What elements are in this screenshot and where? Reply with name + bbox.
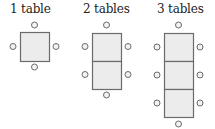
chair-icon — [82, 72, 88, 78]
group-2-tables — [82, 22, 131, 98]
chair-icon — [104, 92, 110, 98]
chair-icon — [176, 121, 182, 127]
table-square — [93, 62, 122, 90]
chair-icon — [10, 44, 16, 50]
chair-icon — [154, 72, 160, 78]
table-square — [165, 90, 194, 118]
chair-icon — [32, 22, 38, 28]
chair-icon — [197, 44, 203, 50]
table-square — [165, 62, 194, 90]
chair-icon — [53, 44, 59, 50]
chair-icon — [154, 44, 160, 50]
chair-icon — [154, 100, 160, 106]
table-square — [165, 34, 194, 62]
group-3-tables — [154, 22, 203, 127]
chair-icon — [176, 22, 182, 28]
chair-icon — [82, 44, 88, 50]
chair-icon — [125, 72, 131, 78]
tables-and-chairs-drawing — [0, 0, 215, 129]
chair-icon — [104, 22, 110, 28]
chair-icon — [125, 44, 131, 50]
group-1-table — [10, 22, 59, 70]
table-arrangement-diagram: 1 table 2 tables 3 tables — [0, 0, 215, 129]
table-square — [93, 34, 122, 62]
table-square — [21, 33, 50, 62]
chair-icon — [197, 72, 203, 78]
chair-icon — [197, 100, 203, 106]
chair-icon — [32, 64, 38, 70]
